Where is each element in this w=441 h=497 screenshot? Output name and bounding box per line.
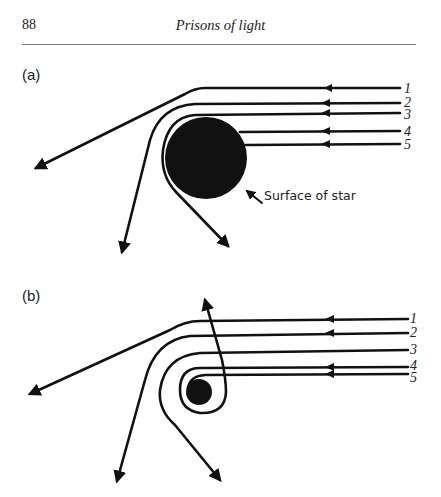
ray-label-1-b: 1	[410, 311, 417, 326]
panel-b: 1 2 3 4 5	[30, 300, 417, 481]
ray-1-b	[30, 319, 408, 394]
annotation-arrow	[247, 191, 262, 203]
ray-label-3-b: 3	[409, 342, 417, 357]
ray-label-1-a: 1	[404, 81, 411, 96]
ray-4-b	[180, 300, 408, 413]
star-surface-a	[165, 117, 247, 199]
book-page: 88 Prisons of light (a) (b)	[0, 0, 441, 497]
ray-5-b	[188, 374, 408, 388]
ray-label-3-a: 3	[403, 107, 411, 122]
ray-label-5-b: 5	[410, 370, 417, 385]
ray-label-5-a: 5	[404, 137, 411, 152]
ray-3-b	[160, 350, 408, 480]
ray-label-2-b: 2	[410, 325, 417, 340]
ray-2-b	[117, 333, 408, 481]
light-ray-diagram: 1 2 3 4 5 Surface of star	[0, 0, 441, 497]
panel-a: 1 2 3 4 5 Surface of star	[36, 81, 411, 252]
ray-4-a	[240, 131, 400, 132]
ray-2-a	[122, 103, 400, 252]
surface-of-star-label: Surface of star	[264, 188, 357, 203]
